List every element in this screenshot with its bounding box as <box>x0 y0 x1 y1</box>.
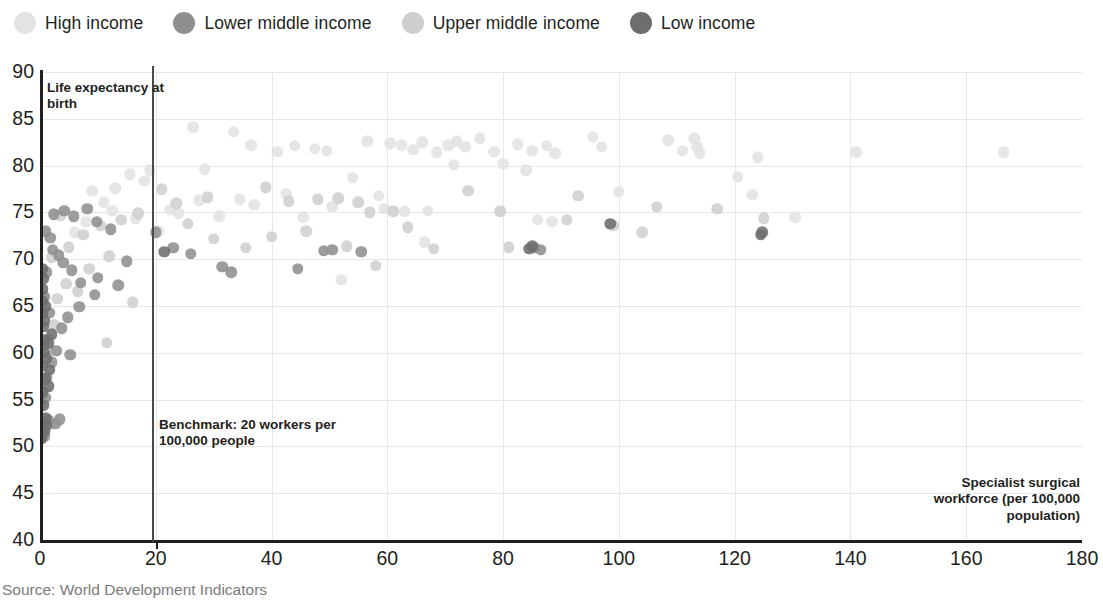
data-point[interactable] <box>387 206 399 218</box>
data-point[interactable] <box>526 145 538 157</box>
data-point[interactable] <box>651 201 663 213</box>
data-point[interactable] <box>64 349 76 361</box>
data-point[interactable] <box>677 145 689 157</box>
data-point[interactable] <box>309 143 321 155</box>
data-point[interactable] <box>104 251 116 263</box>
data-point[interactable] <box>850 147 862 159</box>
data-point[interactable] <box>46 328 58 340</box>
data-point[interactable] <box>312 194 324 206</box>
data-point[interactable] <box>347 172 359 184</box>
data-point[interactable] <box>402 222 414 234</box>
data-point[interactable] <box>431 147 443 159</box>
data-point[interactable] <box>399 206 411 218</box>
data-point[interactable] <box>62 311 74 323</box>
data-point[interactable] <box>532 214 544 226</box>
data-point[interactable] <box>494 206 506 218</box>
data-point[interactable] <box>283 195 295 207</box>
data-point[interactable] <box>416 136 428 148</box>
data-point[interactable] <box>228 126 240 138</box>
data-point[interactable] <box>156 183 168 195</box>
legend-item-upper_middle[interactable]: Upper middle income <box>402 12 600 34</box>
data-point[interactable] <box>396 139 408 151</box>
data-point[interactable] <box>561 214 573 226</box>
data-point[interactable] <box>474 133 486 145</box>
data-point[interactable] <box>573 190 585 202</box>
data-point[interactable] <box>52 293 64 305</box>
data-point[interactable] <box>448 159 460 171</box>
data-point[interactable] <box>127 297 139 309</box>
data-point[interactable] <box>144 165 156 177</box>
data-point[interactable] <box>613 186 625 198</box>
data-point[interactable] <box>292 263 304 275</box>
data-point[interactable] <box>549 148 561 160</box>
data-point[interactable] <box>298 211 310 223</box>
data-point[interactable] <box>604 218 616 230</box>
data-point[interactable] <box>75 277 87 289</box>
data-point[interactable] <box>521 165 533 177</box>
data-point[interactable] <box>361 136 373 148</box>
data-point[interactable] <box>202 192 214 204</box>
data-point[interactable] <box>422 205 434 217</box>
data-point[interactable] <box>353 196 365 208</box>
data-point[interactable] <box>321 145 333 157</box>
legend-item-high[interactable]: High income <box>14 12 143 34</box>
data-point[interactable] <box>428 243 440 255</box>
data-point[interactable] <box>86 185 98 197</box>
data-point[interactable] <box>133 208 145 220</box>
data-point[interactable] <box>91 216 103 228</box>
data-point[interactable] <box>497 158 509 170</box>
data-point[interactable] <box>998 147 1010 159</box>
data-point[interactable] <box>289 140 301 152</box>
data-point[interactable] <box>356 246 368 258</box>
data-point[interactable] <box>364 207 376 219</box>
data-point[interactable] <box>732 171 744 183</box>
data-point[interactable] <box>138 175 150 187</box>
data-point[interactable] <box>234 194 246 206</box>
data-point[interactable] <box>636 226 648 238</box>
data-point[interactable] <box>173 208 185 220</box>
data-point[interactable] <box>43 381 55 393</box>
data-point[interactable] <box>78 229 90 241</box>
data-point[interactable] <box>124 168 136 180</box>
data-point[interactable] <box>92 272 104 284</box>
data-point[interactable] <box>110 182 122 194</box>
data-point[interactable] <box>240 242 252 254</box>
data-point[interactable] <box>170 197 182 209</box>
data-point[interactable] <box>384 137 396 149</box>
data-point[interactable] <box>246 139 258 151</box>
data-point[interactable] <box>60 278 72 290</box>
data-point[interactable] <box>105 223 117 235</box>
data-point[interactable] <box>587 131 599 143</box>
data-point[interactable] <box>101 337 113 349</box>
data-point[interactable] <box>185 248 197 260</box>
data-point[interactable] <box>712 203 724 215</box>
data-point[interactable] <box>45 232 57 244</box>
data-point[interactable] <box>63 241 75 253</box>
data-point[interactable] <box>272 146 284 158</box>
data-point[interactable] <box>335 274 347 286</box>
data-point[interactable] <box>248 199 260 211</box>
legend-item-lower_middle[interactable]: Lower middle income <box>173 12 371 34</box>
data-point[interactable] <box>489 146 501 158</box>
data-point[interactable] <box>66 265 78 277</box>
data-point[interactable] <box>460 141 472 153</box>
data-point[interactable] <box>74 301 86 313</box>
data-point[interactable] <box>188 121 200 133</box>
data-point[interactable] <box>694 148 706 160</box>
data-point[interactable] <box>758 212 770 224</box>
data-point[interactable] <box>54 414 66 426</box>
data-point[interactable] <box>463 185 475 197</box>
data-point[interactable] <box>301 225 313 237</box>
data-point[interactable] <box>214 210 226 222</box>
data-point[interactable] <box>44 364 56 376</box>
data-point[interactable] <box>225 267 237 279</box>
data-point[interactable] <box>526 240 538 252</box>
data-point[interactable] <box>370 260 382 272</box>
data-point[interactable] <box>332 193 344 205</box>
data-point[interactable] <box>56 323 68 335</box>
legend-item-low[interactable]: Low income <box>630 12 755 34</box>
data-point[interactable] <box>790 211 802 223</box>
data-point[interactable] <box>757 226 769 238</box>
data-point[interactable] <box>662 135 674 147</box>
data-point[interactable] <box>182 218 194 230</box>
